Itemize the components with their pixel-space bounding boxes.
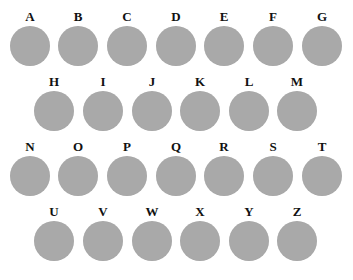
gray-circle[interactable]	[253, 156, 293, 196]
lettered-circle-grid: ABCDEFGHIJKLMNOPQRSTUVWXYZ	[0, 0, 353, 280]
gray-circle[interactable]	[229, 91, 269, 131]
circle-label: S	[253, 140, 293, 154]
circle-option-m[interactable]: M	[277, 75, 317, 131]
gray-circle[interactable]	[58, 156, 98, 196]
circle-label: B	[58, 10, 98, 24]
gray-circle[interactable]	[132, 221, 172, 261]
circle-label: A	[10, 10, 50, 24]
gray-circle[interactable]	[253, 26, 293, 66]
circle-option-e[interactable]: E	[204, 10, 244, 66]
circle-label: G	[302, 10, 342, 24]
circle-label: M	[277, 75, 317, 89]
gray-circle[interactable]	[34, 221, 74, 261]
circle-option-n[interactable]: N	[10, 140, 50, 196]
circle-option-p[interactable]: P	[107, 140, 147, 196]
circle-label: P	[107, 140, 147, 154]
circle-option-j[interactable]: J	[132, 75, 172, 131]
gray-circle[interactable]	[107, 26, 147, 66]
gray-circle[interactable]	[229, 221, 269, 261]
circle-option-v[interactable]: V	[83, 205, 123, 261]
circle-label: Y	[229, 205, 269, 219]
circle-option-y[interactable]: Y	[229, 205, 269, 261]
circle-option-o[interactable]: O	[58, 140, 98, 196]
circle-label: H	[34, 75, 74, 89]
circle-label: R	[204, 140, 244, 154]
circle-label: C	[107, 10, 147, 24]
circle-label: X	[180, 205, 220, 219]
gray-circle[interactable]	[34, 91, 74, 131]
circle-option-h[interactable]: H	[34, 75, 74, 131]
gray-circle[interactable]	[107, 156, 147, 196]
gray-circle[interactable]	[204, 156, 244, 196]
gray-circle[interactable]	[10, 26, 50, 66]
circle-option-t[interactable]: T	[302, 140, 342, 196]
gray-circle[interactable]	[132, 91, 172, 131]
circle-label: L	[229, 75, 269, 89]
gray-circle[interactable]	[302, 26, 342, 66]
circle-label: D	[156, 10, 196, 24]
circle-label: Q	[156, 140, 196, 154]
gray-circle[interactable]	[83, 91, 123, 131]
circle-option-c[interactable]: C	[107, 10, 147, 66]
circle-label: O	[58, 140, 98, 154]
circle-option-g[interactable]: G	[302, 10, 342, 66]
circle-label: Z	[277, 205, 317, 219]
circle-label: W	[132, 205, 172, 219]
gray-circle[interactable]	[180, 221, 220, 261]
circle-option-b[interactable]: B	[58, 10, 98, 66]
circle-option-i[interactable]: I	[83, 75, 123, 131]
gray-circle[interactable]	[156, 156, 196, 196]
gray-circle[interactable]	[10, 156, 50, 196]
circle-label: F	[253, 10, 293, 24]
circle-option-a[interactable]: A	[10, 10, 50, 66]
circle-label: T	[302, 140, 342, 154]
gray-circle[interactable]	[277, 221, 317, 261]
gray-circle[interactable]	[83, 221, 123, 261]
gray-circle[interactable]	[58, 26, 98, 66]
circle-option-q[interactable]: Q	[156, 140, 196, 196]
circle-option-u[interactable]: U	[34, 205, 74, 261]
circle-option-k[interactable]: K	[180, 75, 220, 131]
circle-label: E	[204, 10, 244, 24]
circle-label: J	[132, 75, 172, 89]
circle-label: U	[34, 205, 74, 219]
circle-label: N	[10, 140, 50, 154]
circle-option-w[interactable]: W	[132, 205, 172, 261]
gray-circle[interactable]	[302, 156, 342, 196]
circle-label: K	[180, 75, 220, 89]
circle-option-s[interactable]: S	[253, 140, 293, 196]
circle-option-z[interactable]: Z	[277, 205, 317, 261]
circle-label: V	[83, 205, 123, 219]
circle-option-r[interactable]: R	[204, 140, 244, 196]
circle-option-d[interactable]: D	[156, 10, 196, 66]
circle-option-l[interactable]: L	[229, 75, 269, 131]
gray-circle[interactable]	[204, 26, 244, 66]
circle-option-f[interactable]: F	[253, 10, 293, 66]
gray-circle[interactable]	[180, 91, 220, 131]
gray-circle[interactable]	[156, 26, 196, 66]
gray-circle[interactable]	[277, 91, 317, 131]
circle-option-x[interactable]: X	[180, 205, 220, 261]
circle-label: I	[83, 75, 123, 89]
